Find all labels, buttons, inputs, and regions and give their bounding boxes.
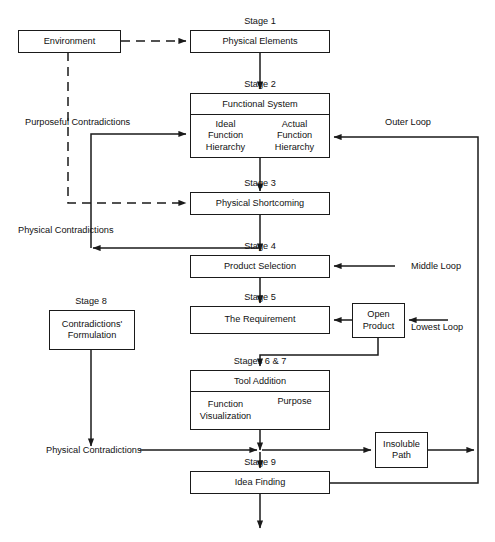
edge-label-outer-loop: Outer Loop: [385, 117, 431, 127]
node-physical-elements[interactable]: Physical Elements: [190, 30, 330, 53]
node-functional-system[interactable]: Functional System Ideal Function Hierarc…: [190, 93, 330, 158]
node-environment[interactable]: Environment: [18, 30, 121, 53]
edge-label-physical-contradictions-upper: Physical Contradictions: [18, 225, 114, 235]
node-product-selection[interactable]: Product Selection: [190, 255, 330, 278]
node-insoluble-path[interactable]: Insoluble Path: [375, 432, 428, 468]
edge-label-lowest-loop: Lowest Loop: [411, 322, 463, 332]
stage-label-8: Stage 8: [75, 296, 107, 306]
stage-label-2: Stage 2: [244, 79, 276, 89]
node-tool-addition-function-visualization: Function Visualization: [191, 392, 260, 429]
edge-label-physical-contradictions-lower: Physical Contradictions: [46, 445, 142, 455]
edge-label-purposeful-contradictions: Purposeful Contradictions: [25, 117, 130, 127]
node-insoluble-path-label: Insoluble Path: [376, 433, 427, 467]
stage-label-4: Stage 4: [244, 241, 276, 251]
stage-label-9: Stage 9: [244, 457, 276, 467]
edge-label-middle-loop: Middle Loop: [411, 261, 461, 271]
node-physical-shortcoming-label: Physical Shortcoming: [191, 193, 329, 214]
node-idea-finding[interactable]: Idea Finding: [190, 471, 330, 494]
stage-label-5: Stage 5: [244, 292, 276, 302]
node-the-requirement[interactable]: The Requirement: [190, 306, 330, 334]
node-functional-system-ideal: Ideal Function Hierarchy: [191, 115, 260, 157]
node-tool-addition-purpose: Purpose: [260, 392, 329, 429]
flow-diagram: Physical Elements -->: [0, 0, 495, 542]
node-the-requirement-label: The Requirement: [191, 307, 329, 333]
node-contradictions-formulation-label: Contradictions' Formulation: [50, 311, 134, 349]
node-product-selection-label: Product Selection: [191, 256, 329, 277]
stage-label-1: Stage 1: [244, 16, 276, 26]
node-open-product-label: Open Product: [353, 304, 404, 337]
node-tool-addition[interactable]: Tool Addition Function Visualization Pur…: [190, 370, 330, 430]
stage-label-3: Stage 3: [244, 178, 276, 188]
node-contradictions-formulation[interactable]: Contradictions' Formulation: [49, 310, 135, 350]
node-physical-elements-label: Physical Elements: [191, 31, 329, 52]
stage-label-6-7: Stages 6 & 7: [234, 356, 287, 366]
node-idea-finding-label: Idea Finding: [191, 472, 329, 493]
node-functional-system-actual: Actual Function Hierarchy: [260, 115, 329, 157]
node-environment-label: Environment: [19, 31, 120, 52]
node-open-product[interactable]: Open Product: [352, 303, 405, 338]
node-physical-shortcoming[interactable]: Physical Shortcoming: [190, 192, 330, 215]
node-functional-system-header: Functional System: [191, 94, 329, 115]
edge-environment-to-physical-shortcoming: [68, 52, 186, 203]
node-tool-addition-header: Tool Addition: [191, 371, 329, 392]
